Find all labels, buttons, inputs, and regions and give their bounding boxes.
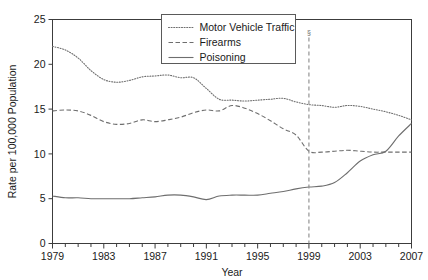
legend-label: Firearms <box>200 36 241 48</box>
x-axis-tick-label: 2003 <box>349 250 373 262</box>
y-axis-tick-label: 25 <box>34 13 46 25</box>
x-axis-tick-label: 1979 <box>41 250 65 262</box>
y-axis-tick-label: 10 <box>34 148 46 160</box>
x-axis-tick-label: 1991 <box>195 250 219 262</box>
x-axis-tick-label: 1999 <box>297 250 321 262</box>
x-axis-title: Year <box>221 266 243 278</box>
series-line-poisoning <box>53 123 412 199</box>
y-axis-tick-label: 0 <box>40 237 46 249</box>
legend-label: Poisoning <box>200 51 246 63</box>
series-line-firearms <box>53 105 412 152</box>
y-axis-tick-label: 5 <box>40 192 46 204</box>
y-axis-title: Rate per 100,000 Population <box>6 64 18 198</box>
chart-container: 0510152025197919831987199119951999200320… <box>0 0 428 280</box>
annotation-symbol: § <box>307 29 311 36</box>
y-axis-tick-label: 15 <box>34 103 46 115</box>
x-axis-tick-label: 2007 <box>400 250 424 262</box>
x-axis-tick-label: 1987 <box>143 250 167 262</box>
line-chart: 0510152025197919831987199119951999200320… <box>0 0 428 280</box>
legend-label: Motor Vehicle Traffic <box>200 21 295 33</box>
x-axis-tick-label: 1995 <box>246 250 270 262</box>
x-axis-tick-label: 1983 <box>92 250 116 262</box>
y-axis-tick-label: 20 <box>34 58 46 70</box>
